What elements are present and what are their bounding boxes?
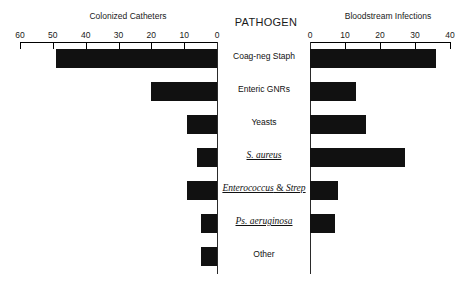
category-label: Enterococcus & Strep (219, 183, 309, 193)
right-bar[interactable] (310, 214, 335, 233)
chart-row: Enteric GNRs (0, 75, 467, 108)
center-column-header: PATHOGEN (218, 16, 314, 28)
left-bar-track (20, 42, 217, 75)
left-axis-tick-label: 10 (179, 30, 188, 40)
right-bar[interactable] (310, 148, 405, 167)
right-axis-tick-label: 10 (340, 30, 349, 40)
left-bar[interactable] (187, 115, 217, 134)
left-bar-track (20, 108, 217, 141)
right-axis-tick-label: 20 (375, 30, 384, 40)
left-axis-title: Colonized Catheters (48, 11, 208, 21)
category-label: Enteric GNRs (219, 84, 309, 94)
left-bar-track (20, 240, 217, 273)
chart-canvas: Colonized Catheters PATHOGEN Bloodstream… (0, 0, 467, 284)
chart-row: Enterococcus & Strep (0, 174, 467, 207)
left-axis-tick-label: 50 (48, 30, 57, 40)
category-label: Other (219, 249, 309, 259)
chart-row: Coag-neg Staph (0, 42, 467, 75)
left-bar[interactable] (201, 247, 217, 266)
right-bar-track (310, 75, 450, 108)
left-axis-tick-label: 60 (15, 30, 24, 40)
chart-row: Yeasts (0, 108, 467, 141)
chart-row: S. aureus (0, 141, 467, 174)
right-bar-track (310, 42, 450, 75)
left-axis-tick-label: 30 (114, 30, 123, 40)
left-axis-tick-label: 20 (147, 30, 156, 40)
right-bar[interactable] (310, 82, 356, 101)
right-bar-track (310, 207, 450, 240)
category-label: Yeasts (219, 117, 309, 127)
right-axis-tick-label: 30 (410, 30, 419, 40)
right-bar-track (310, 141, 450, 174)
left-bar[interactable] (56, 49, 217, 68)
category-label: Coag-neg Staph (219, 51, 309, 61)
left-bar[interactable] (201, 214, 217, 233)
left-bar[interactable] (197, 148, 217, 167)
left-axis-tick-label: 40 (81, 30, 90, 40)
chart-row: Ps. aeruginosa (0, 207, 467, 240)
left-bar-track (20, 174, 217, 207)
right-axis-tick-label: 0 (308, 30, 313, 40)
right-bar[interactable] (310, 49, 436, 68)
left-bar-track (20, 207, 217, 240)
right-axis-tick-label: 40 (445, 30, 454, 40)
left-axis-tick-label: 0 (215, 30, 220, 40)
left-bar-track (20, 75, 217, 108)
right-bar-track (310, 174, 450, 207)
right-bar-track (310, 240, 450, 273)
right-bar[interactable] (310, 115, 366, 134)
left-bar-track (20, 141, 217, 174)
right-bar[interactable] (310, 181, 338, 200)
right-bar-track (310, 108, 450, 141)
left-bar[interactable] (151, 82, 217, 101)
chart-row: Other (0, 240, 467, 273)
category-label: Ps. aeruginosa (219, 216, 309, 226)
category-label: S. aureus (219, 150, 309, 160)
right-axis-title: Bloodstream Infections (318, 11, 458, 21)
left-bar[interactable] (187, 181, 217, 200)
